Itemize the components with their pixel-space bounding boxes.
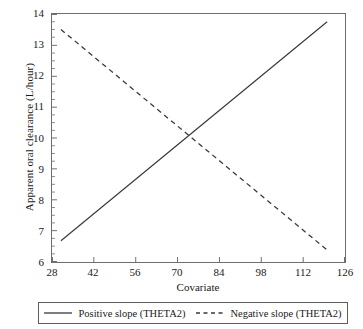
series-negative-slope-line: [61, 29, 327, 250]
series-positive-slope-line: [61, 22, 327, 241]
x-tick-label: 28: [32, 267, 72, 278]
x-tick-label: 70: [157, 267, 197, 278]
y-tick-label: 9: [20, 164, 44, 175]
x-axis-title: Covariate: [50, 281, 346, 293]
x-tick-label: 126: [325, 267, 363, 278]
legend-solid-line-icon: [44, 309, 72, 317]
x-tick-label: 42: [73, 267, 113, 278]
y-axis-major-ticks: [52, 14, 57, 261]
plot-canvas: [52, 14, 345, 262]
x-axis-tick-labels: 28 42 56 70 84 98 112 126: [0, 267, 363, 281]
chart-figure: Apparent oral clearance (L/hour) 14 13 1…: [0, 0, 363, 329]
y-tick-label: 8: [20, 195, 44, 206]
chart-legend: Positive slope (THETA2) Negative slope (…: [38, 302, 348, 324]
legend-item-positive-slope: Positive slope (THETA2): [44, 308, 185, 319]
x-tick-label: 98: [241, 267, 281, 278]
y-tick-label: 11: [20, 101, 44, 112]
plot-area: [51, 13, 346, 263]
x-tick-label: 112: [283, 267, 323, 278]
legend-item-negative-slope: Negative slope (THETA2): [196, 308, 341, 319]
y-tick-label: 14: [20, 8, 44, 19]
x-tick-label: 84: [199, 267, 239, 278]
x-axis-major-ticks: [52, 257, 344, 262]
x-tick-label: 56: [115, 267, 155, 278]
y-tick-label: 13: [20, 39, 44, 50]
y-tick-label: 12: [20, 70, 44, 81]
y-tick-label: 7: [20, 226, 44, 237]
legend-dashed-line-icon: [196, 309, 224, 317]
legend-label-positive-slope: Positive slope (THETA2): [78, 308, 185, 319]
y-tick-label: 10: [20, 133, 44, 144]
legend-label-negative-slope: Negative slope (THETA2): [230, 308, 341, 319]
